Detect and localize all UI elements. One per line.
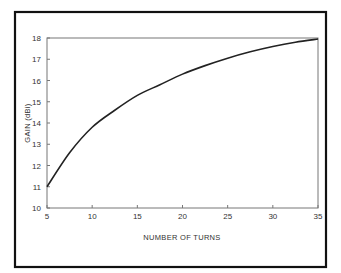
y-tick-label: 11 <box>33 183 42 192</box>
y-tick-label: 10 <box>32 204 41 213</box>
figure-frame <box>15 12 326 267</box>
x-tick-label: 25 <box>223 212 232 221</box>
y-tick-label: 15 <box>32 98 41 107</box>
y-tick-label: 14 <box>32 119 41 128</box>
y-tick-label: 16 <box>32 77 41 86</box>
y-tick-label: 12 <box>32 162 41 171</box>
x-tick-label: 5 <box>45 212 50 221</box>
y-tick-label: 18 <box>32 34 41 43</box>
y-tick-label: 17 <box>32 55 41 64</box>
chart: 101112131415161718 5101520253035 NUMBER … <box>0 0 341 273</box>
x-tick-label: 20 <box>178 212 187 221</box>
x-tick-label: 10 <box>88 212 97 221</box>
x-tick-label: 15 <box>133 212 142 221</box>
x-tick-label: 30 <box>268 212 277 221</box>
x-axis-label: NUMBER OF TURNS <box>143 233 220 242</box>
x-tick-label: 35 <box>314 212 323 221</box>
y-axis-label: GAIN (dBi) <box>23 103 32 142</box>
y-tick-label: 13 <box>32 140 41 149</box>
